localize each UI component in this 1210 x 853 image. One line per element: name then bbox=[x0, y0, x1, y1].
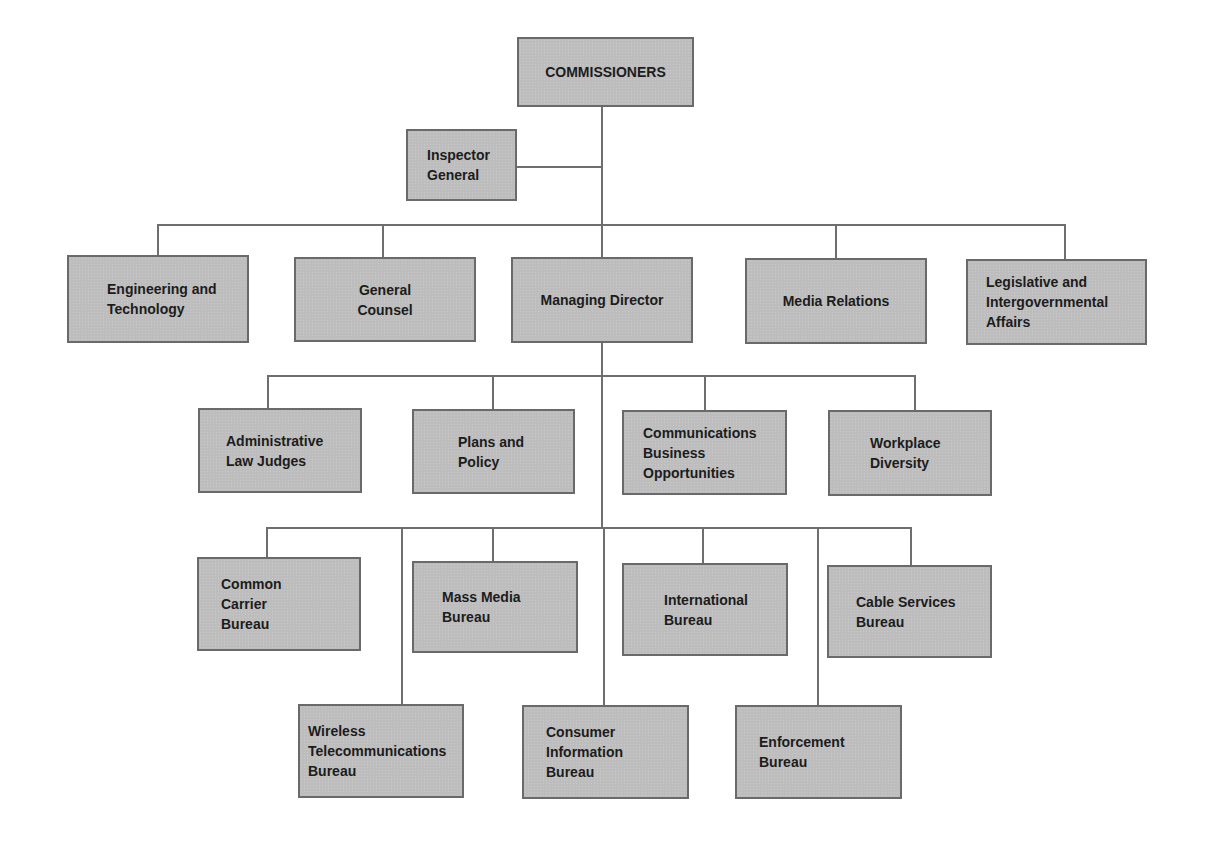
node-label: Wireless Telecommunications Bureau bbox=[308, 721, 446, 781]
node-consumer-information-bureau: Consumer Information Bureau bbox=[522, 705, 689, 799]
connector-cbo bbox=[704, 375, 706, 411]
node-engineering-technology: Engineering and Technology bbox=[67, 255, 249, 343]
connector-inspector bbox=[516, 166, 602, 168]
connector-alj bbox=[267, 375, 269, 409]
node-label: Inspector General bbox=[427, 145, 490, 185]
connector-level2-bus bbox=[267, 375, 916, 377]
node-communications-business-opportunities: Communications Business Opportunities bbox=[622, 410, 787, 495]
connector-common-carrier bbox=[266, 527, 268, 558]
node-label: International Bureau bbox=[664, 590, 748, 630]
connector-cable bbox=[910, 527, 912, 566]
node-commissioners: COMMISSIONERS bbox=[517, 37, 694, 107]
node-label: Plans and Policy bbox=[458, 432, 524, 472]
node-enforcement-bureau: Enforcement Bureau bbox=[735, 705, 902, 799]
connector-bureau-bus bbox=[266, 527, 912, 529]
node-workplace-diversity: Workplace Diversity bbox=[828, 410, 992, 496]
node-label: General Counsel bbox=[357, 280, 412, 320]
connector-wireless bbox=[401, 527, 403, 705]
node-cable-services-bureau: Cable Services Bureau bbox=[827, 565, 992, 658]
connector-level1-bus bbox=[157, 224, 1066, 226]
node-label: Administrative Law Judges bbox=[226, 431, 323, 471]
node-inspector-general: Inspector General bbox=[406, 129, 517, 201]
connector-mass-media bbox=[492, 527, 494, 562]
node-mass-media-bureau: Mass Media Bureau bbox=[412, 561, 578, 653]
connector-international bbox=[702, 527, 704, 564]
connector-workplace bbox=[914, 375, 916, 411]
node-administrative-law-judges: Administrative Law Judges bbox=[198, 408, 362, 493]
node-legislative-affairs: Legislative and Intergovernmental Affair… bbox=[966, 259, 1147, 345]
node-label: Cable Services Bureau bbox=[856, 592, 956, 632]
node-media-relations: Media Relations bbox=[745, 258, 927, 344]
node-label: COMMISSIONERS bbox=[545, 62, 666, 82]
connector-legislative bbox=[1064, 224, 1066, 260]
org-chart: COMMISSIONERS Inspector General Engineer… bbox=[0, 0, 1210, 853]
node-international-bureau: International Bureau bbox=[622, 563, 788, 656]
node-label: Managing Director bbox=[541, 290, 664, 310]
node-label: Enforcement Bureau bbox=[759, 732, 845, 772]
node-plans-policy: Plans and Policy bbox=[412, 409, 575, 494]
connector-media-relations bbox=[835, 224, 837, 259]
node-label: Workplace Diversity bbox=[870, 433, 941, 473]
node-wireless-telecommunications-bureau: Wireless Telecommunications Bureau bbox=[298, 704, 464, 798]
connector-engineering bbox=[157, 224, 159, 256]
node-label: Consumer Information Bureau bbox=[546, 722, 623, 782]
node-label: Legislative and Intergovernmental Affair… bbox=[986, 272, 1108, 332]
node-label: Mass Media Bureau bbox=[442, 587, 521, 627]
node-common-carrier-bureau: Common Carrier Bureau bbox=[197, 557, 361, 651]
connector-enforcement bbox=[817, 527, 819, 706]
node-label: Common Carrier Bureau bbox=[221, 574, 282, 634]
node-label: Engineering and Technology bbox=[107, 279, 217, 319]
node-managing-director: Managing Director bbox=[511, 257, 693, 343]
node-label: Communications Business Opportunities bbox=[643, 423, 757, 483]
node-label: Media Relations bbox=[783, 291, 890, 311]
connector-plans-policy bbox=[492, 375, 494, 410]
node-general-counsel: General Counsel bbox=[294, 257, 476, 342]
connector-general-counsel bbox=[382, 224, 384, 258]
connector-consumer bbox=[603, 527, 605, 706]
